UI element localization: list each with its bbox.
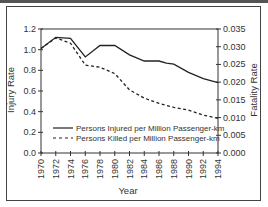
killed-series-line bbox=[41, 38, 218, 118]
x-tick-label: 1986 bbox=[154, 159, 164, 179]
y-tick-label: 0.0 bbox=[23, 148, 36, 158]
y-tick-label: 0.6 bbox=[23, 86, 36, 96]
y2-tick-label: 0.030 bbox=[223, 42, 246, 52]
x-tick-label: 1972 bbox=[51, 159, 61, 179]
y-tick-label: 1.2 bbox=[23, 24, 36, 34]
chart-series bbox=[41, 37, 218, 118]
x-axis-title: Year bbox=[118, 185, 137, 196]
y2-tick-label: 0.005 bbox=[223, 130, 246, 140]
chart-axes: 0.00.20.40.60.81.01.20.0000.0050.0100.01… bbox=[23, 24, 245, 179]
y-tick-label: 0.8 bbox=[23, 65, 36, 75]
injured-series-line bbox=[41, 37, 218, 82]
y2-tick-label: 0.015 bbox=[223, 95, 246, 105]
y2-tick-label: 0.025 bbox=[223, 59, 246, 69]
y2-tick-label: 0.010 bbox=[223, 113, 246, 123]
legend-killed-label: Persons Killed per Million Passenger-km bbox=[76, 134, 220, 143]
chart-legend: Persons Injured per Million Passenger-km… bbox=[53, 124, 225, 143]
x-tick-label: 1974 bbox=[66, 159, 76, 179]
y-tick-label: 0.2 bbox=[23, 127, 36, 137]
y-tick-label: 0.4 bbox=[23, 107, 36, 117]
y2-tick-label: 0.000 bbox=[223, 148, 246, 158]
line-chart: 0.00.20.40.60.81.01.20.0000.0050.0100.01… bbox=[0, 0, 268, 207]
x-tick-label: 1976 bbox=[80, 159, 90, 179]
y2-tick-label: 0.035 bbox=[223, 24, 246, 34]
x-tick-label: 1988 bbox=[169, 159, 179, 179]
y-axis-title: Injury Rate bbox=[5, 67, 16, 113]
x-tick-label: 1982 bbox=[125, 159, 135, 179]
x-tick-label: 1980 bbox=[110, 159, 120, 179]
y2-axis-title: Fatality Rate bbox=[248, 63, 259, 116]
x-tick-label: 1990 bbox=[184, 159, 194, 179]
y2-tick-label: 0.020 bbox=[223, 77, 246, 87]
x-tick-label: 1978 bbox=[95, 159, 105, 179]
x-tick-label: 1970 bbox=[36, 159, 46, 179]
x-tick-label: 1994 bbox=[213, 159, 223, 179]
legend-injured-label: Persons Injured per Million Passenger-km bbox=[76, 124, 225, 133]
x-tick-label: 1984 bbox=[139, 159, 149, 179]
x-tick-label: 1992 bbox=[198, 159, 208, 179]
y-tick-label: 1.0 bbox=[23, 45, 36, 55]
